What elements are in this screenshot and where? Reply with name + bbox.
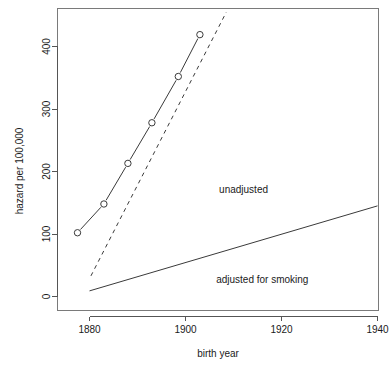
chart-figure: 400 300 200 100 0 hazard per 100,000 188… xyxy=(0,0,390,368)
series-unadjusted-segment xyxy=(154,80,176,119)
data-point-marker xyxy=(197,31,203,37)
data-point-marker xyxy=(175,73,181,79)
x-axis: 1880 1900 1920 1940 birth year xyxy=(78,317,389,360)
x-tick-label-1880: 1880 xyxy=(78,324,101,335)
y-tick-label-300: 300 xyxy=(41,100,52,117)
data-point-marker xyxy=(101,201,107,207)
y-axis: 400 300 200 100 0 hazard per 100,000 xyxy=(14,38,58,300)
hazard-vs-birth-year-plot: 400 300 200 100 0 hazard per 100,000 188… xyxy=(0,0,390,368)
y-tick-label-0: 0 xyxy=(41,293,52,299)
series-unadjusted-segment xyxy=(106,167,126,200)
annotations-group: unadjusted adjusted for smoking xyxy=(216,184,308,284)
y-tick-label-200: 200 xyxy=(41,163,52,180)
y-tick-label-400: 400 xyxy=(41,38,52,55)
annotation-adjusted-for-smoking: adjusted for smoking xyxy=(216,274,308,285)
plot-frame xyxy=(58,9,379,311)
series-unadjusted-trend-dashed-line xyxy=(91,12,226,276)
x-tick-label-1920: 1920 xyxy=(270,324,293,335)
annotation-unadjusted: unadjusted xyxy=(219,184,268,195)
y-tick-label-100: 100 xyxy=(41,225,52,242)
data-point-marker xyxy=(74,230,80,236)
series-group xyxy=(74,12,377,291)
series-unadjusted-markers xyxy=(74,31,203,236)
x-tick-label-1940: 1940 xyxy=(366,324,389,335)
plot-border xyxy=(58,9,379,311)
data-point-marker xyxy=(125,160,131,166)
series-unadjusted-segment xyxy=(180,39,198,73)
y-axis-title: hazard per 100,000 xyxy=(14,127,25,214)
series-unadjusted-segment xyxy=(130,127,150,160)
data-point-marker xyxy=(149,120,155,126)
x-tick-label-1900: 1900 xyxy=(174,324,197,335)
x-axis-title: birth year xyxy=(197,348,239,359)
series-unadjusted-segment xyxy=(80,207,100,229)
